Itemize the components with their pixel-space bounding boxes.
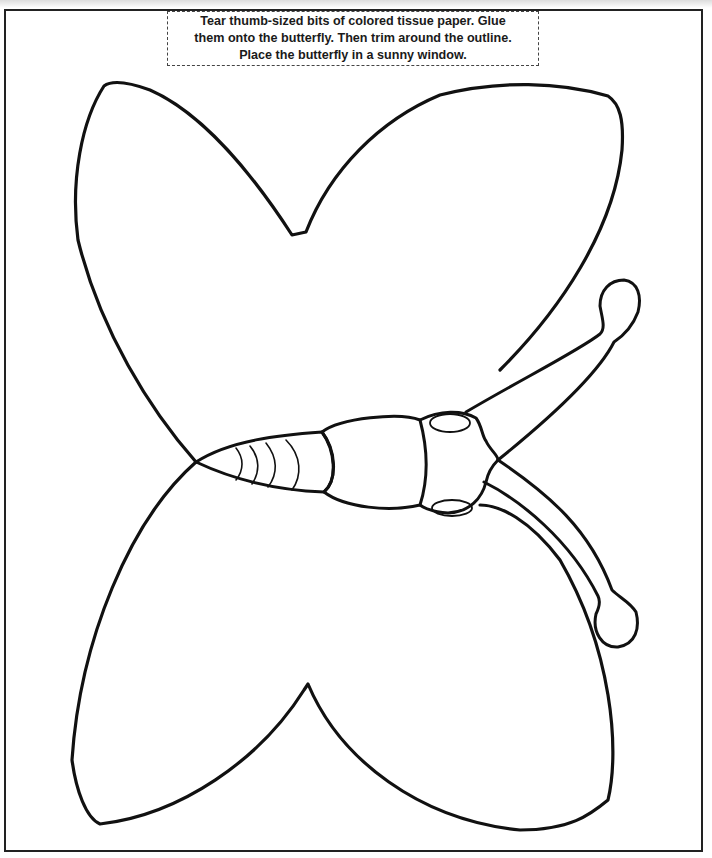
head-spot-top bbox=[430, 414, 470, 432]
lower-wings bbox=[72, 462, 613, 830]
instructions-line-3: Place the butterfly in a sunny window. bbox=[239, 47, 467, 64]
instructions-box: Tear thumb-sized bits of colored tissue … bbox=[167, 11, 539, 66]
butterfly-illustration bbox=[0, 0, 712, 858]
abdomen-segments bbox=[236, 440, 299, 490]
abdomen bbox=[196, 432, 333, 492]
lower-antenna bbox=[484, 460, 637, 647]
instructions-line-2: them onto the butterfly. Then trim aroun… bbox=[194, 30, 511, 47]
instructions-line-1: Tear thumb-sized bits of colored tissue … bbox=[200, 13, 506, 30]
upper-left-wing bbox=[76, 83, 623, 462]
thorax bbox=[322, 416, 426, 508]
